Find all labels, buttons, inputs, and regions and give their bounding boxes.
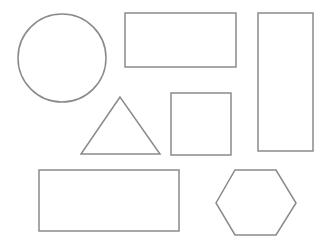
background <box>0 0 331 237</box>
shapes-canvas <box>0 0 331 237</box>
